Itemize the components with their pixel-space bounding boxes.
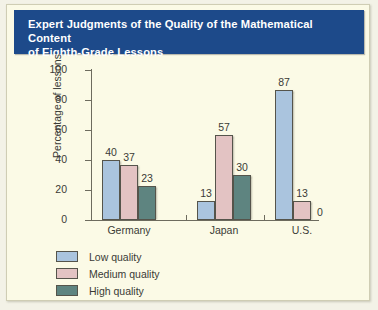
- bar-value-label: 23: [131, 172, 163, 184]
- y-tick-mark: [85, 160, 91, 161]
- legend-item: High quality: [56, 283, 160, 298]
- y-tick-label: 60: [27, 123, 67, 135]
- y-tick-label: 40: [27, 153, 67, 165]
- y-tick-label: 0: [27, 213, 67, 225]
- bar-value-label: 30: [226, 161, 258, 173]
- x-category-label: Japan: [181, 224, 267, 236]
- bar: [275, 90, 293, 221]
- x-category-label: U.S.: [259, 224, 345, 236]
- y-tick-mark: [85, 190, 91, 191]
- bar: [197, 201, 215, 221]
- legend-label: High quality: [89, 285, 144, 297]
- x-category-label: Germany: [86, 224, 172, 236]
- y-tick-mark: [85, 100, 91, 101]
- page-title: Expert Judgments of the Quality of the M…: [28, 17, 358, 59]
- x-group-tick: [264, 215, 265, 221]
- y-axis-line: [91, 69, 92, 221]
- legend-item: Low quality: [56, 249, 160, 264]
- legend-item: Medium quality: [56, 266, 160, 281]
- title-band: Expert Judgments of the Quality of the M…: [14, 10, 364, 54]
- bar: [138, 186, 156, 221]
- bar-value-label: 13: [286, 187, 318, 199]
- legend-label: Medium quality: [89, 268, 160, 280]
- bar-value-label: 87: [268, 76, 300, 88]
- legend: Low qualityMedium qualityHigh quality: [56, 249, 160, 300]
- y-tick-mark: [85, 130, 91, 131]
- bar-value-label: 57: [208, 121, 240, 133]
- legend-label: Low quality: [89, 251, 142, 263]
- legend-swatch: [56, 285, 78, 296]
- bar-value-label: 0: [304, 206, 336, 218]
- y-tick-mark: [85, 220, 91, 221]
- bar-value-label: 37: [113, 151, 145, 163]
- x-axis-line: [91, 220, 319, 221]
- bar: [102, 160, 120, 220]
- legend-swatch: [56, 268, 78, 279]
- bar: [233, 175, 251, 220]
- bar: [215, 135, 233, 221]
- y-tick-label: 100: [27, 63, 67, 75]
- y-tick-label: 80: [27, 93, 67, 105]
- figure-panel: Expert Judgments of the Quality of the M…: [6, 4, 370, 301]
- legend-swatch: [56, 251, 78, 262]
- y-tick-mark: [85, 70, 91, 71]
- y-tick-label: 20: [27, 183, 67, 195]
- x-group-tick: [186, 215, 187, 221]
